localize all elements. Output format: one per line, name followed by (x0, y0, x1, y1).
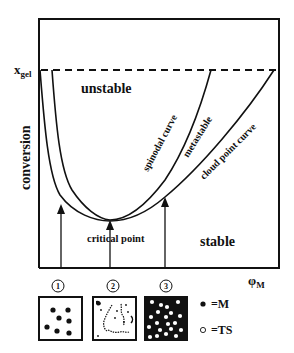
arrow-1 (57, 204, 65, 268)
marker-3: 3 (160, 280, 172, 292)
region-unstable: unstable (81, 81, 132, 96)
legend-hollow: =TS (200, 323, 232, 337)
region-stable: stable (200, 234, 235, 249)
svg-text:3: 3 (164, 282, 168, 291)
filled-dot-icon (200, 301, 205, 306)
marker-2: 2 (107, 280, 119, 292)
critical-point-label: critical point (87, 233, 145, 244)
morphology-box-3 (145, 297, 187, 340)
x-axis-label: φM (248, 273, 265, 290)
svg-text:2: 2 (111, 282, 115, 291)
svg-text:1: 1 (56, 282, 60, 291)
phase-diagram: xgel conversion unstable stable spinodal… (0, 0, 294, 353)
arrow-2 (106, 220, 114, 268)
morphology-box-1 (39, 297, 82, 340)
y-tick-xgel: xgel (14, 62, 32, 79)
svg-text:=TS: =TS (211, 323, 233, 337)
arrow-3 (161, 197, 169, 268)
hollow-dot-icon (200, 327, 205, 332)
morphology-box-2 (93, 297, 136, 340)
svg-text:=M: =M (211, 297, 229, 311)
y-axis-label: conversion (18, 125, 33, 190)
spinodal-curve-label: spinodal curve (140, 112, 179, 173)
legend-filled: =M (200, 297, 229, 311)
metastable-label: metastable (180, 114, 214, 159)
marker-1: 1 (52, 280, 64, 292)
